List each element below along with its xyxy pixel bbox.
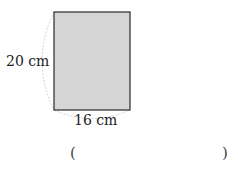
width-label: 16 cm	[74, 113, 117, 127]
answer-close-paren: )	[222, 146, 228, 161]
answer-open-paren: (	[70, 146, 76, 161]
height-label: 20 cm	[6, 54, 49, 68]
answer-blank[interactable]	[84, 146, 218, 164]
rectangle-shape	[54, 12, 130, 110]
